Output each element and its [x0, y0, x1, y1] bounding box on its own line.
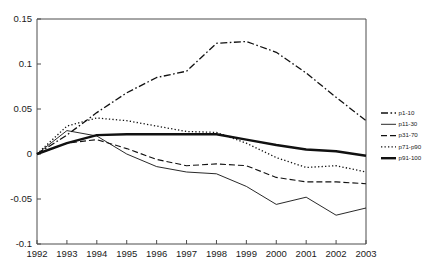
x-tick-label: 1996 — [146, 248, 167, 259]
chart-container: 0.150.10.050-0.05-0.1 199219931994199519… — [0, 0, 429, 278]
y-tick-label: 0.05 — [14, 103, 33, 114]
x-tick-label: 2000 — [266, 248, 287, 259]
x-tick-label: 1993 — [56, 248, 77, 259]
x-tick-label: 1995 — [116, 248, 137, 259]
y-tick-label: -0.05 — [10, 193, 32, 204]
legend-label-p71-p90: p71-p90 — [399, 143, 422, 150]
legend-label-p11-30: p11-30 — [399, 120, 418, 127]
x-tick-label: 1994 — [86, 248, 107, 259]
x-tick-label: 1999 — [236, 248, 257, 259]
line-chart: 0.150.10.050-0.05-0.1 199219931994199519… — [0, 0, 429, 278]
x-tick-label: 2003 — [355, 248, 376, 259]
x-tick-label: 1997 — [176, 248, 197, 259]
legend-label-p91-100: p91-100 — [399, 154, 422, 161]
y-tick-label: 0.1 — [19, 58, 32, 69]
x-tick-label: 2002 — [326, 248, 347, 259]
x-tick-label: 1992 — [26, 248, 47, 259]
y-tick-label: 0 — [27, 148, 32, 159]
x-tick-label: 1998 — [206, 248, 227, 259]
x-tick-label: 2001 — [296, 248, 317, 259]
legend-label-p1-10: p1-10 — [399, 109, 415, 116]
chart-background — [0, 0, 429, 278]
legend-label-p31-70: p31-70 — [399, 131, 419, 138]
y-tick-label: 0.15 — [14, 13, 33, 24]
